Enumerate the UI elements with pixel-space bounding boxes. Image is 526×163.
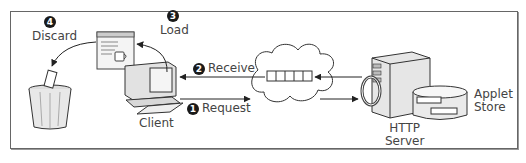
step-2-badge: 2 <box>193 63 205 75</box>
discard-arrow <box>52 42 96 66</box>
server-label-line2: Server <box>385 135 424 148</box>
load-text: Load <box>160 23 189 37</box>
request-text: Request <box>202 101 251 115</box>
step-2-receive-label: 2Receive <box>193 61 255 75</box>
step-4-discard-label: 4 Discard <box>32 16 77 43</box>
receive-text: Receive <box>208 61 255 75</box>
applet-window-icon <box>97 32 134 69</box>
discard-text: Discard <box>32 29 77 43</box>
client-computer-icon <box>125 62 183 114</box>
applet-store-label: Applet Store <box>474 88 513 114</box>
diagram-art <box>0 0 526 163</box>
network-cloud-icon <box>252 44 334 102</box>
trash-can-icon <box>29 70 71 129</box>
store-label-line2: Store <box>474 101 513 114</box>
step-3-load-label: 3 Load <box>160 10 189 37</box>
step-1-badge: 1 <box>187 103 199 115</box>
applet-store-icon <box>413 86 467 120</box>
step-4-badge: 4 <box>44 16 56 28</box>
step-1-request-label: 1Request <box>187 101 251 115</box>
client-label: Client <box>139 116 174 130</box>
http-server-label: HTTP Server <box>385 122 424 148</box>
step-3-badge: 3 <box>167 10 179 22</box>
